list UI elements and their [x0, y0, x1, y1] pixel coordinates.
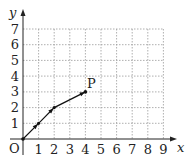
y-tick: 3: [11, 84, 19, 99]
y-tick: 5: [11, 53, 19, 68]
point-p-label: P: [87, 76, 96, 91]
x-axis-label: x: [177, 140, 185, 155]
origin-label: O: [9, 141, 20, 156]
y-tick: 2: [11, 100, 19, 115]
x-tick-labels: 1 2 3 4 5 6 7 8 9: [34, 142, 167, 157]
y-axis-label: y: [8, 5, 17, 20]
y-tick: 1: [11, 116, 19, 131]
x-tick: 4: [81, 142, 89, 157]
x-tick: 8: [144, 142, 152, 157]
y-tick: 7: [11, 22, 19, 37]
y-axis-arrow-icon: [21, 9, 26, 16]
x-tick: 1: [34, 142, 42, 157]
x-tick: 5: [97, 142, 105, 157]
y-tick-labels: 1 2 3 4 5 6 7: [11, 22, 19, 131]
x-tick: 2: [50, 142, 58, 157]
y-tick: 4: [11, 69, 19, 84]
coordinate-diagram: x y O 1 2 3 4 5 6 7 8 9 1 2 3 4 5 6 7 P: [0, 0, 189, 162]
x-tick: 7: [128, 142, 136, 157]
y-tick: 6: [11, 37, 19, 52]
x-tick: 9: [159, 142, 167, 157]
origin-point: [21, 137, 25, 141]
x-axis-arrow-icon: [170, 137, 177, 142]
point-1-1: [37, 122, 40, 125]
x-tick: 3: [66, 142, 74, 157]
x-tick: 6: [112, 142, 120, 157]
point-2-2: [53, 106, 56, 109]
